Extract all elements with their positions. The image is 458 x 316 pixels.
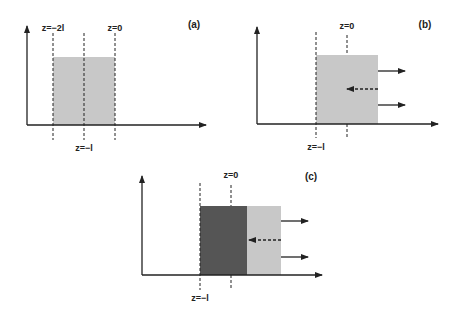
panel-b-label: (b)	[419, 19, 432, 30]
panel-c-marker-top: z=0	[224, 170, 239, 180]
diagram-canvas: z=−2l z=0 z=−l (a) z=0 z=−l (b) z=0 z=−l…	[0, 0, 458, 316]
panel-b-marker-top: z=0	[340, 21, 355, 31]
panel-a-marker-mid-bottom: z=−l	[75, 143, 93, 153]
panel-a-marker-right-top: z=0	[108, 23, 123, 33]
panel-c-label: (c)	[305, 171, 317, 182]
panel-a: z=−2l z=0 z=−l (a)	[27, 19, 206, 153]
panel-b: z=0 z=−l (b)	[257, 19, 438, 152]
panel-c-slab-dark	[200, 206, 247, 275]
panel-a-marker-left-top: z=−2l	[42, 23, 65, 33]
panel-a-label: (a)	[188, 19, 200, 30]
panel-b-marker-bottom: z=−l	[307, 142, 325, 152]
panel-c: z=0 z=−l (c)	[142, 170, 322, 303]
panel-c-marker-bottom: z=−l	[191, 293, 209, 303]
